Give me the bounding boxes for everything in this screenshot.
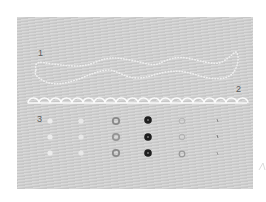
scallop-edge-stitch	[28, 98, 248, 103]
eyelet-c3-r3	[113, 150, 119, 156]
eyelet-c2-r2	[78, 134, 83, 139]
eyelet-c2-r3	[78, 150, 83, 155]
eyelet-c1-r1	[47, 118, 52, 123]
eyelet-c5-r2	[179, 134, 185, 140]
eyelet-c1-r3	[47, 150, 52, 155]
wavy-outline-stitch	[35, 52, 238, 84]
eyelet-c6-r2	[217, 135, 218, 138]
eyelet-c6-r1	[217, 119, 218, 122]
eyelet-c3-r2	[113, 134, 119, 140]
eyelet-grid	[47, 116, 218, 157]
corner-mark-icon	[259, 163, 265, 170]
eyelet-c5-r3	[179, 151, 185, 157]
eyelet-c1-r2	[47, 134, 52, 139]
eyelet-c3-r1	[113, 118, 119, 124]
stitch-patterns	[0, 0, 266, 202]
eyelet-c2-r1	[78, 118, 83, 123]
eyelet-c5-r1	[179, 118, 185, 124]
eyelet-c6-r3	[217, 152, 218, 155]
